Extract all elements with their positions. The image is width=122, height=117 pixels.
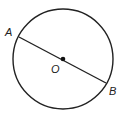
- circle-diagram: A O B: [0, 0, 122, 117]
- label-a: A: [4, 26, 12, 38]
- label-b: B: [109, 85, 116, 97]
- label-o: O: [51, 63, 60, 75]
- center-point-o: [61, 57, 66, 62]
